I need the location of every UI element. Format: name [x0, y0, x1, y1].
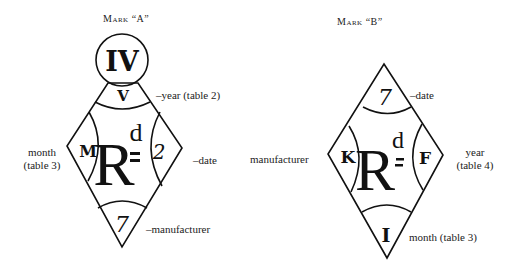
mark-b-top-annotation: –date: [410, 89, 434, 102]
mark-b-left-annotation: manufacturer: [250, 153, 309, 166]
mark-a-upper-section-text: V: [116, 87, 129, 105]
mark-b-right-section-text: F: [419, 148, 431, 168]
mark-b-right-annotation-line2: (table 4): [450, 159, 500, 172]
mark-b-bottom-annotation: month (table 3): [409, 231, 477, 244]
mark-a-right-annotation: –date: [193, 154, 217, 167]
mark-b-equals-bottom: [395, 164, 403, 167]
mark-b-top-section-text: 7: [378, 85, 392, 110]
mark-b-right-annotation-line1: year: [450, 146, 500, 159]
mark-a-center-d: d: [130, 118, 143, 147]
mark-a-left-annotation-line1: month: [18, 146, 66, 159]
mark-b-equals-top: [396, 158, 404, 161]
mark-a-bottom-annotation: –manufacturer: [146, 223, 210, 236]
mark-a-equals-top: [130, 152, 140, 155]
mark-a-left-annotation: month (table 3): [18, 146, 66, 172]
mark-a-top-circle-text: IV: [105, 46, 140, 77]
mark-a-left-annotation-line2: (table 3): [18, 159, 66, 172]
mark-a-equals-bottom: [130, 159, 140, 162]
mark-b-bottom-section-text: I: [382, 224, 391, 246]
mark-a-bottom-section-text: 7: [115, 212, 129, 237]
mark-b-right-annotation: year (table 4): [450, 146, 500, 172]
mark-a-right-section-text: 2: [152, 140, 166, 164]
mark-a-bottom-divider: [98, 201, 147, 208]
mark-b-center-r: R: [355, 137, 395, 203]
mark-b-center-d: d: [392, 127, 404, 153]
mark-b-bottom-divider: [362, 205, 411, 212]
mark-a-upper-annotation: –year (table 2): [156, 89, 220, 102]
